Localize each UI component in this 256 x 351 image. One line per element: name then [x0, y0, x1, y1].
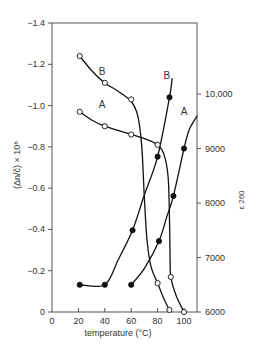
series-curve	[80, 78, 172, 286]
filled-data-point	[167, 95, 172, 100]
open-data-point	[77, 53, 82, 58]
filled-data-point	[130, 228, 135, 233]
left-tick-label: 0	[40, 307, 45, 317]
left-tick-label: −1.4	[27, 18, 45, 28]
x-tick-label: 0	[49, 316, 54, 326]
right-tick-label: 10,000	[205, 89, 233, 99]
right-tick-label: 9000	[205, 144, 225, 154]
x-tick-label: 100	[176, 316, 191, 326]
left-tick-label: −0.2	[27, 266, 45, 276]
right-tick-label: 8000	[205, 198, 225, 208]
open-data-point	[168, 274, 173, 279]
series-label: B	[164, 70, 171, 81]
open-data-point	[77, 109, 82, 114]
left-axis-ticks: 0−0.2−0.4−0.6−0.8−1.0−1.2−1.4	[27, 18, 52, 317]
series-label: B	[99, 66, 106, 77]
filled-data-point	[129, 282, 134, 287]
x-axis-label: temperature (°C)	[84, 328, 151, 338]
right-tick-label: 6000	[205, 307, 225, 317]
series-label: A	[181, 106, 188, 117]
filled-data-point	[181, 146, 186, 151]
left-tick-label: −0.4	[27, 224, 45, 234]
filled-data-point	[155, 154, 160, 159]
chart-svg: 0−0.2−0.4−0.6−0.8−1.0−1.2−1.4 6000700080…	[0, 0, 256, 351]
plot-frame	[52, 23, 197, 312]
series-curve	[80, 56, 170, 310]
right-axis-ticks: 600070008000900010,000	[197, 89, 233, 317]
open-data-point	[102, 80, 107, 85]
series-annotations: BABA	[99, 66, 188, 117]
open-data-point	[129, 97, 134, 102]
data-curves	[80, 56, 197, 312]
left-tick-label: −1.2	[27, 59, 45, 69]
filled-data-point	[156, 239, 161, 244]
left-tick-label: −0.8	[27, 142, 45, 152]
filled-data-point	[171, 193, 176, 198]
y-left-axis-label: (Δn/ĉ) × 10⁸	[12, 141, 22, 189]
open-data-point	[129, 132, 134, 137]
open-data-point	[155, 142, 160, 147]
x-tick-label: 80	[153, 316, 163, 326]
open-data-point	[167, 307, 172, 312]
left-tick-label: −1.0	[27, 101, 45, 111]
series-label: A	[99, 99, 106, 110]
left-tick-label: −0.6	[27, 183, 45, 193]
x-tick-label: 20	[73, 316, 83, 326]
filled-data-point	[77, 282, 82, 287]
chart-container: 0−0.2−0.4−0.6−0.8−1.0−1.2−1.4 6000700080…	[0, 0, 256, 351]
open-data-point	[181, 309, 186, 314]
right-tick-label: 7000	[205, 253, 225, 263]
x-tick-label: 60	[126, 316, 136, 326]
open-data-point	[155, 281, 160, 286]
x-tick-label: 40	[100, 316, 110, 326]
y-right-axis-label: ε 260	[237, 190, 246, 210]
open-data-point	[102, 124, 107, 129]
filled-data-point	[102, 282, 107, 287]
